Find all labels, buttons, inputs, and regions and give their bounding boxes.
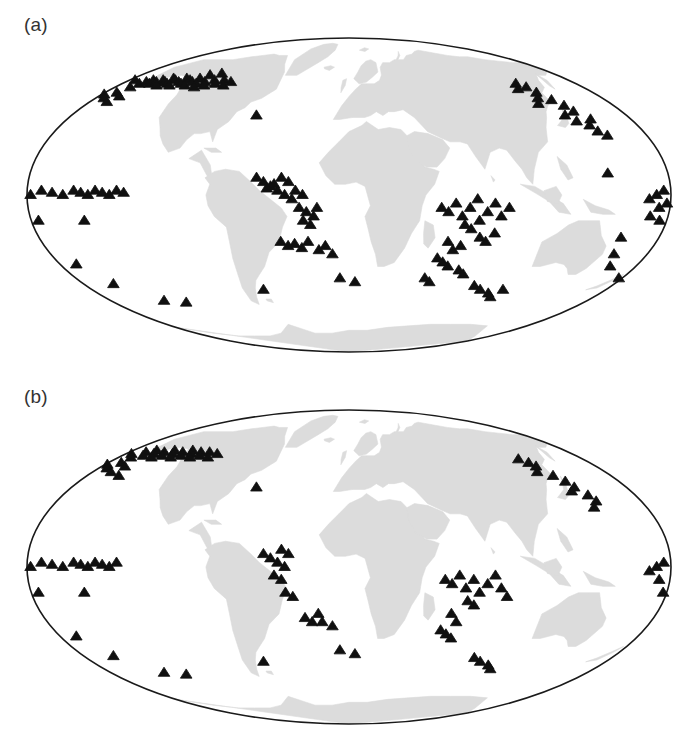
- world-map-b: [0, 372, 694, 744]
- map-panel-a: (a): [0, 0, 694, 372]
- map-panel-b: (b): [0, 372, 694, 744]
- figure-container: (a) (b): [0, 0, 694, 744]
- world-map-a: [0, 0, 694, 372]
